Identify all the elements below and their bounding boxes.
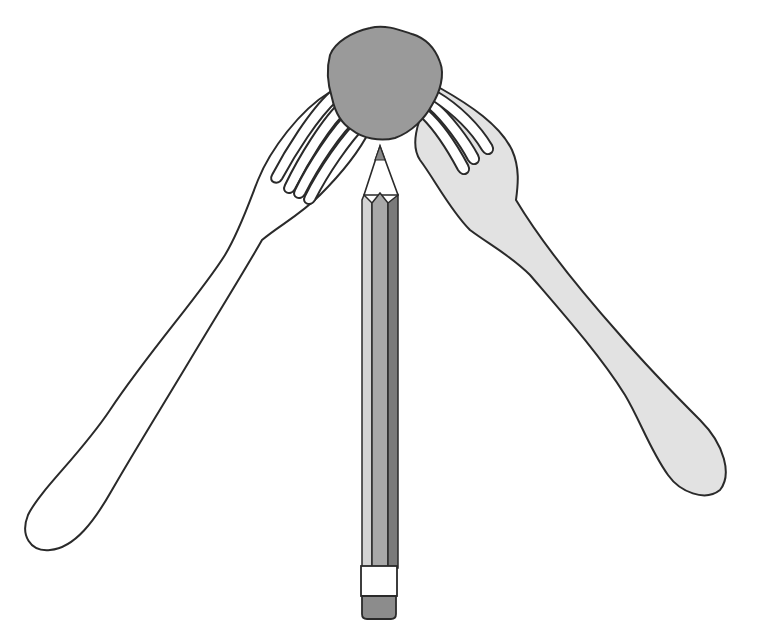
right-fork bbox=[415, 88, 725, 495]
left-fork bbox=[25, 91, 370, 550]
pencil-lead bbox=[375, 146, 385, 160]
pencil-ferrule bbox=[361, 566, 397, 596]
balancing-forks-illustration bbox=[0, 0, 758, 643]
illustration-canvas bbox=[0, 0, 758, 643]
pencil-eraser bbox=[362, 596, 396, 619]
pencil-body-dark bbox=[388, 195, 398, 568]
pencil bbox=[361, 146, 398, 619]
pencil-body-mid bbox=[372, 193, 388, 568]
pencil-body-light bbox=[362, 195, 372, 568]
